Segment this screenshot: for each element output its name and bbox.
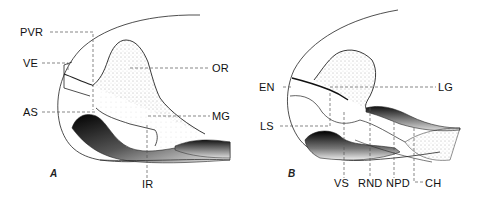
label-ir: IR	[142, 178, 153, 190]
panel-a-drawing	[58, 15, 230, 163]
label-npd: NPD	[386, 177, 410, 189]
label-mg: MG	[212, 110, 230, 122]
label-or: OR	[212, 62, 229, 74]
anatomical-diagram: PVR VE AS OR MG IR A EN LS LG VS RND NPD…	[0, 0, 479, 201]
panel-b-drawing	[287, 10, 460, 162]
panel-a-letter: A	[50, 168, 57, 179]
label-rnd: RND	[358, 177, 382, 189]
panel-b-letter: B	[288, 168, 295, 179]
label-en: EN	[259, 81, 275, 93]
label-vs: VS	[334, 177, 349, 189]
label-as: AS	[23, 106, 38, 118]
label-ve: VE	[23, 57, 38, 69]
diagram-drawing	[0, 0, 479, 201]
label-pvr: PVR	[20, 26, 43, 38]
label-ch: CH	[425, 177, 441, 189]
label-ls: LS	[260, 120, 274, 132]
label-lg: LG	[438, 81, 453, 93]
